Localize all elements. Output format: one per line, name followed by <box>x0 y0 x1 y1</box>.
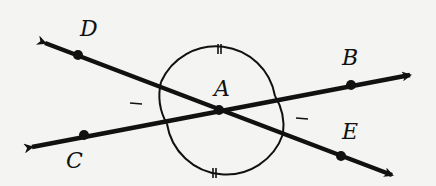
point-a <box>214 105 224 115</box>
label-b: B <box>342 47 358 69</box>
geometry-diagram: D B C E A <box>0 0 436 186</box>
point-c <box>79 130 89 140</box>
point-b <box>346 80 356 90</box>
point-d <box>73 50 83 60</box>
point-e <box>336 151 346 161</box>
label-a: A <box>214 78 230 100</box>
label-c: C <box>66 150 83 172</box>
arc-bottom <box>167 124 283 175</box>
label-d: D <box>80 18 98 40</box>
label-e: E <box>342 121 358 143</box>
